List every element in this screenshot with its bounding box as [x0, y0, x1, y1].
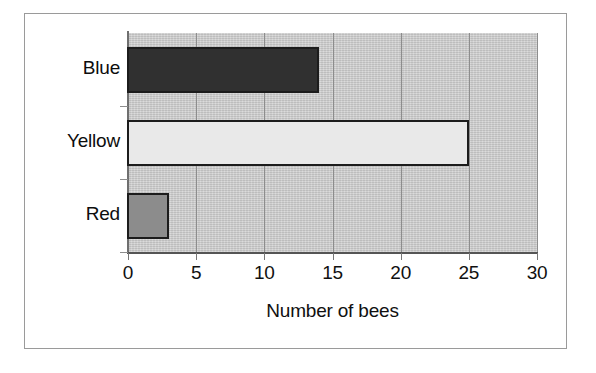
x-tick-mark [401, 253, 402, 260]
x-tick-mark [264, 253, 265, 260]
x-tick-label: 20 [379, 262, 423, 284]
category-label-red: Red [10, 203, 120, 225]
x-tick-label: 5 [174, 262, 218, 284]
category-axis-labels: BlueYellowRed [8, 0, 120, 373]
x-tick-label: 10 [242, 262, 286, 284]
x-tick-mark [196, 253, 197, 260]
bar-blue [127, 47, 319, 93]
x-tick-label: 0 [106, 262, 150, 284]
category-label-blue: Blue [10, 57, 120, 79]
x-tick-label: 15 [311, 262, 355, 284]
x-tick-mark [537, 253, 538, 260]
y-tick-mark [120, 179, 128, 180]
gridline [537, 33, 538, 252]
y-tick-mark [120, 252, 128, 253]
bar-red [127, 193, 169, 239]
category-label-yellow: Yellow [10, 130, 120, 152]
bar-yellow [127, 120, 469, 166]
x-tick-mark [469, 253, 470, 260]
x-tick-mark [333, 253, 334, 260]
bar-chart: BlueYellowRed 051015202530 Number of bee… [0, 0, 596, 373]
x-axis-title: Number of bees [128, 300, 537, 322]
x-tick-label: 25 [447, 262, 491, 284]
x-tick-label: 30 [515, 262, 559, 284]
x-tick-mark [128, 253, 129, 260]
y-tick-mark [120, 106, 128, 107]
